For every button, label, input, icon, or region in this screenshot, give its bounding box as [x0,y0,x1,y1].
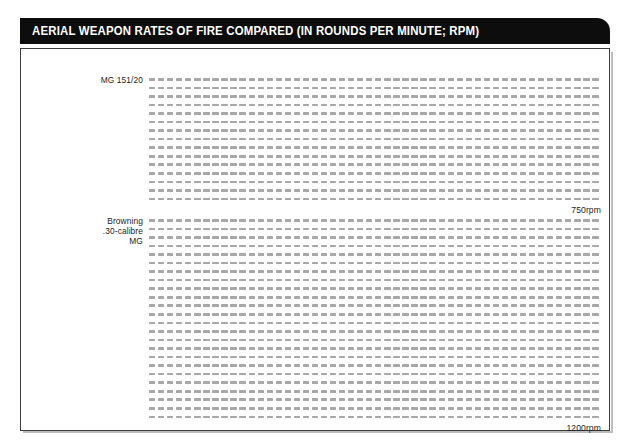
round-mark [583,78,589,81]
round-mark [312,245,318,248]
round-mark [194,373,200,376]
round-mark [276,381,282,384]
round-mark [556,322,562,325]
round-mark [556,270,562,273]
round-mark [520,104,526,107]
round-mark [420,253,426,256]
round-mark [294,364,300,367]
round-mark [511,138,517,141]
round-mark [402,219,408,222]
round-mark [556,390,562,393]
round-mark [502,364,508,367]
round-mark [565,172,571,175]
round-mark [565,228,571,231]
round-mark [439,121,445,124]
round-mark [267,270,273,273]
round-mark [547,163,553,166]
rounds-row [149,143,601,152]
round-mark [529,407,535,410]
round-mark [348,398,354,401]
round-mark [402,287,408,290]
round-mark [249,138,255,141]
round-mark [294,163,300,166]
round-mark [230,398,236,401]
round-mark [303,155,309,158]
round-mark [411,390,417,393]
round-mark [411,322,417,325]
round-mark [375,398,381,401]
round-mark [357,330,363,333]
round-mark [212,364,218,367]
round-mark [303,129,309,132]
round-mark [520,373,526,376]
round-mark [574,146,580,149]
round-mark [493,245,499,248]
round-mark [375,407,381,410]
round-mark [384,198,390,201]
round-mark [448,296,454,299]
round-mark [321,407,327,410]
round-mark [258,339,264,342]
round-mark [276,287,282,290]
round-mark [176,198,182,201]
round-mark [176,219,182,222]
round-mark [176,189,182,192]
round-mark [592,121,598,124]
round-mark [466,236,472,239]
round-mark [529,95,535,98]
round-mark [348,279,354,282]
round-mark [502,322,508,325]
round-mark [457,104,463,107]
round-mark [167,313,173,316]
round-mark [439,181,445,184]
round-mark [520,313,526,316]
round-mark [267,155,273,158]
round-mark [592,287,598,290]
round-mark [393,146,399,149]
round-mark [529,219,535,222]
round-mark [475,253,481,256]
round-mark [439,270,445,273]
round-mark [384,313,390,316]
round-mark [348,129,354,132]
round-mark [267,198,273,201]
round-mark [475,296,481,299]
round-mark [149,416,155,419]
round-mark [285,347,291,350]
round-mark [511,253,517,256]
round-mark [230,279,236,282]
round-mark [221,373,227,376]
round-mark [502,112,508,115]
round-mark [475,364,481,367]
round-mark [285,398,291,401]
round-mark [493,236,499,239]
round-mark [538,339,544,342]
round-mark [303,95,309,98]
round-mark [592,330,598,333]
round-mark [330,78,336,81]
round-mark [158,381,164,384]
round-mark [429,373,435,376]
round-mark [303,198,309,201]
round-mark [448,228,454,231]
round-mark [258,296,264,299]
round-mark [466,87,472,90]
round-mark [592,407,598,410]
round-mark [176,228,182,231]
round-mark [565,155,571,158]
round-mark [294,121,300,124]
round-mark [411,189,417,192]
round-mark [348,198,354,201]
round-mark [212,78,218,81]
round-mark [511,381,517,384]
round-mark [194,219,200,222]
round-mark [239,416,245,419]
round-mark [203,172,209,175]
round-mark [303,339,309,342]
round-mark [384,129,390,132]
round-mark [484,381,490,384]
round-mark [221,219,227,222]
round-mark [348,253,354,256]
round-mark [402,270,408,273]
round-mark [185,364,191,367]
